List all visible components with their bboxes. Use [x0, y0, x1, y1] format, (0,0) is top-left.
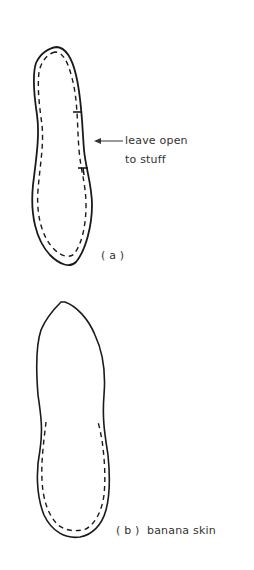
- pattern-b-seam: [42, 420, 105, 531]
- pattern-b-outline: [37, 302, 110, 537]
- panel-a-label: ( a ): [101, 250, 124, 261]
- pattern-a-seam: [38, 52, 86, 256]
- opening-mark-bottom-stem: [83, 168, 84, 175]
- annotation-text-line1: leave open: [125, 135, 188, 146]
- diagram-canvas: [0, 0, 254, 570]
- panel-b-label: ( b ) banana skin: [116, 525, 216, 536]
- arrow-head-icon: [94, 138, 101, 144]
- annotation-text-line2: to stuff: [125, 154, 166, 165]
